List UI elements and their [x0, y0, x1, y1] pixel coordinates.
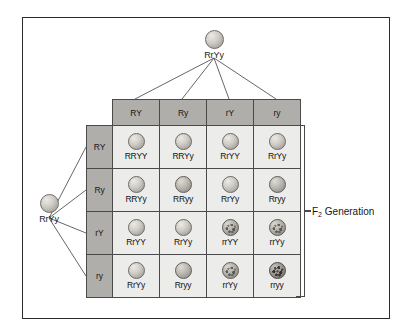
offspring-cell-0-3: RrYy — [254, 126, 301, 169]
f2-bracket — [296, 125, 305, 297]
offspring-genotype: rrYy — [270, 237, 285, 247]
seed-icon — [128, 176, 145, 193]
offspring-cell-2-2: rrYY — [207, 212, 254, 255]
offspring-cell-3-2: rrYy — [207, 255, 254, 298]
seed-icon — [269, 133, 286, 150]
table-row: rY RrYY RrYy rrYY — [87, 212, 301, 255]
f2-label-suffix: Generation — [322, 206, 374, 217]
punnett-square-figure: RrYy RrYy RY Ry rY ry RY RRYY — [0, 0, 413, 335]
parent-top-seed-icon — [205, 30, 224, 49]
row-header-3: ry — [87, 255, 113, 298]
punnett-square-grid: RY Ry rY ry RY RRYY RRYy — [86, 99, 301, 298]
offspring-genotype: rrYy — [223, 280, 238, 290]
offspring-genotype: RRYy — [172, 151, 193, 161]
offspring-cell-3-1: Rryy — [160, 255, 207, 298]
table-row: ry RrYy Rryy rrYy — [87, 255, 301, 298]
offspring-genotype: RRYy — [125, 194, 146, 204]
offspring-cell-1-2: RrYy — [207, 169, 254, 212]
seed-icon — [269, 176, 286, 193]
grid-corner-blank — [87, 100, 113, 126]
parent-left-seed-icon — [40, 194, 59, 213]
offspring-genotype: RrYy — [221, 194, 239, 204]
seed-icon — [269, 262, 286, 279]
seed-icon — [128, 133, 145, 150]
row-header-0: RY — [87, 126, 113, 169]
parent-top: RrYy — [187, 30, 241, 61]
f2-generation-annotation: F2 Generation — [296, 125, 374, 297]
offspring-cell-0-1: RRYy — [160, 126, 207, 169]
table-row: RY RRYY RRYy RrYY — [87, 126, 301, 169]
row-header-2: rY — [87, 212, 113, 255]
seed-icon — [128, 219, 145, 236]
column-header-ry-dominant: RY — [113, 100, 160, 126]
parent-left: RrYy — [22, 194, 76, 225]
offspring-genotype: rryy — [270, 280, 283, 290]
offspring-cell-2-1: RrYy — [160, 212, 207, 255]
column-header-ry-recessive: ry — [254, 100, 301, 126]
seed-icon — [175, 176, 192, 193]
offspring-cell-1-0: RRYy — [113, 169, 160, 212]
offspring-cell-2-0: RrYY — [113, 212, 160, 255]
offspring-genotype: RRyy — [173, 194, 193, 204]
row-header-1: Ry — [87, 169, 113, 212]
f2-bracket-stem — [305, 210, 311, 211]
offspring-cell-3-3: rryy — [254, 255, 301, 298]
seed-icon — [175, 133, 192, 150]
offspring-cell-1-3: Rryy — [254, 169, 301, 212]
offspring-cell-0-0: RRYY — [113, 126, 160, 169]
offspring-genotype: RrYy — [174, 237, 192, 247]
column-header-ry-mixed2: rY — [207, 100, 254, 126]
seed-icon — [128, 262, 145, 279]
offspring-genotype: Rryy — [269, 194, 286, 204]
seed-icon — [175, 262, 192, 279]
table-row: Ry RRYy RRyy RrYy — [87, 169, 301, 212]
seed-icon — [222, 262, 239, 279]
offspring-genotype: RrYy — [127, 280, 145, 290]
offspring-cell-2-3: rrYy — [254, 212, 301, 255]
offspring-cell-3-0: RrYy — [113, 255, 160, 298]
parent-top-genotype-label: RrYy — [204, 50, 224, 61]
seed-icon — [222, 176, 239, 193]
offspring-cell-1-1: RRyy — [160, 169, 207, 212]
offspring-genotype: RRYY — [125, 151, 148, 161]
seed-icon — [222, 219, 239, 236]
f2-generation-label: F2 Generation — [312, 206, 374, 217]
offspring-genotype: rrYY — [222, 237, 238, 247]
seed-icon — [222, 133, 239, 150]
parent-left-genotype-label: RrYy — [39, 214, 59, 225]
offspring-genotype: RrYY — [220, 151, 240, 161]
offspring-genotype: Rryy — [175, 280, 192, 290]
f2-label-subscript: 2 — [318, 211, 322, 218]
offspring-genotype: RrYY — [126, 237, 146, 247]
offspring-cell-0-2: RrYY — [207, 126, 254, 169]
column-header-ry-mixed1: Ry — [160, 100, 207, 126]
punnett-header-row: RY Ry rY ry — [87, 100, 301, 126]
seed-icon — [269, 219, 286, 236]
seed-icon — [175, 219, 192, 236]
offspring-genotype: RrYy — [268, 151, 286, 161]
